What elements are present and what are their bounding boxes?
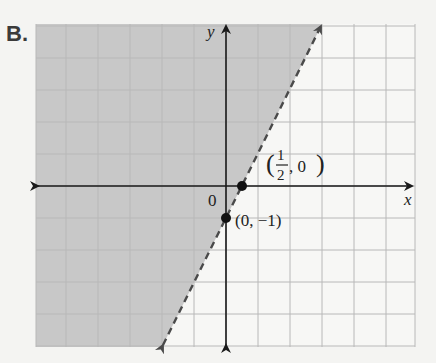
origin-label: 0 (208, 191, 217, 210)
y-axis-label: y (205, 22, 215, 41)
point-half-zero (237, 181, 247, 191)
svg-text:2: 2 (277, 167, 285, 183)
x-axis-label: x (403, 190, 412, 209)
point-zero-neg-one (221, 213, 231, 223)
point-label-zero-neg-one: (0, −1) (235, 211, 281, 230)
coordinate-plane: x y 0 ( 1 2 , 0 ) (0, −1) (0, 0, 436, 363)
svg-text:(: ( (266, 149, 275, 178)
svg-text:1: 1 (277, 147, 285, 163)
svg-text:): ) (316, 149, 325, 178)
svg-text:, 0: , 0 (289, 157, 306, 176)
